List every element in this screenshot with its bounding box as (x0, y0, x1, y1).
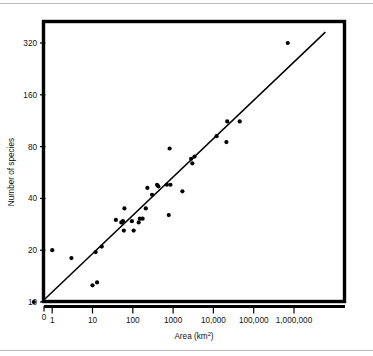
y-tick-label-320: 320 (23, 39, 37, 48)
data-point (32, 300, 36, 304)
x-axis-title: Area (km2) (174, 331, 213, 341)
data-point (90, 283, 94, 287)
data-point (180, 189, 184, 193)
data-point (156, 184, 160, 188)
x-axis-title-close: ) (211, 332, 214, 341)
x-tick-label-1000: 1000 (164, 316, 183, 325)
y-tick-label-160: 160 (23, 91, 37, 100)
data-point (95, 280, 99, 284)
data-point (69, 256, 73, 260)
y-tick-label-80: 80 (28, 143, 38, 152)
data-point (121, 219, 125, 223)
data-point (190, 161, 194, 165)
data-point (192, 154, 196, 158)
data-point (150, 193, 154, 197)
species-area-scatter-plot: 320 160 80 40 20 10 Number of species 0 … (0, 0, 373, 356)
x-tick-label-1: 1 (50, 316, 55, 325)
data-point (145, 186, 149, 190)
data-point (122, 228, 126, 232)
data-point (168, 146, 172, 150)
x-tick-label-0: 0 (42, 313, 47, 322)
data-point (214, 134, 218, 138)
plot-frame (44, 22, 345, 302)
y-axis-title: Number of species (7, 138, 16, 206)
data-point (130, 219, 134, 223)
x-tick-label-10000: 10,000 (201, 316, 226, 325)
data-point (168, 183, 172, 187)
x-tick-label-100: 100 (126, 316, 140, 325)
x-tick-label-100000: 100,000 (239, 316, 269, 325)
data-point (165, 183, 169, 187)
data-point (50, 248, 54, 252)
data-point (100, 244, 104, 248)
x-tick-label-1000000: 1,000,000 (276, 316, 313, 325)
data-point (286, 41, 290, 45)
data-point (94, 250, 98, 254)
y-tick-label-40: 40 (28, 194, 38, 203)
y-tick-label-20: 20 (28, 246, 38, 255)
x-axis-title-base: Area (km (174, 332, 207, 341)
figure-container: 320 160 80 40 20 10 Number of species 0 … (0, 0, 373, 356)
data-point (225, 119, 229, 123)
data-point (114, 218, 118, 222)
data-point (167, 213, 171, 217)
data-point (140, 217, 144, 221)
data-point (137, 220, 141, 224)
data-point (238, 119, 242, 123)
data-point (144, 206, 148, 210)
data-point (122, 206, 126, 210)
x-tick-label-10: 10 (88, 316, 98, 325)
data-point (132, 228, 136, 232)
data-point (224, 140, 228, 144)
